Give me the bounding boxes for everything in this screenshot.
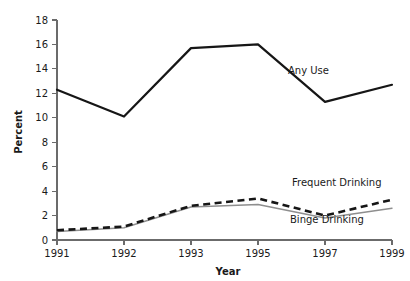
series-annotations: Any UseFrequent DrinkingBinge Drinking — [288, 65, 382, 225]
y-axis-title: Percent — [13, 110, 24, 154]
y-tick-label: 10 — [35, 112, 48, 123]
series-line-any-use — [57, 44, 392, 116]
x-tick-label: 1991 — [44, 248, 69, 259]
y-tick-label: 4 — [42, 186, 48, 197]
x-axis-ticks: 199119921993199519971999 — [44, 240, 404, 259]
y-tick-label: 18 — [35, 15, 48, 26]
series-label-binge-drinking: Binge Drinking — [290, 214, 364, 225]
line-chart: 024681012141618 199119921993199519971999… — [0, 0, 410, 281]
y-tick-label: 8 — [42, 137, 48, 148]
y-tick-label: 0 — [42, 235, 48, 246]
y-axis-ticks: 024681012141618 — [35, 15, 57, 246]
chart-plot-area: 024681012141618 199119921993199519971999… — [0, 0, 410, 281]
x-axis-title: Year — [215, 266, 241, 277]
y-tick-label: 14 — [35, 63, 48, 74]
x-tick-label: 1999 — [379, 248, 404, 259]
series-label-frequent-drinking: Frequent Drinking — [292, 177, 382, 188]
series-label-any-use: Any Use — [288, 65, 329, 76]
x-tick-label: 1992 — [111, 248, 136, 259]
y-tick-label: 12 — [35, 88, 48, 99]
x-tick-label: 1995 — [245, 248, 270, 259]
x-tick-label: 1997 — [312, 248, 337, 259]
y-tick-label: 2 — [42, 210, 48, 221]
y-tick-label: 16 — [35, 39, 48, 50]
data-series-group — [57, 44, 392, 231]
x-tick-label: 1993 — [178, 248, 203, 259]
y-tick-label: 6 — [42, 161, 48, 172]
